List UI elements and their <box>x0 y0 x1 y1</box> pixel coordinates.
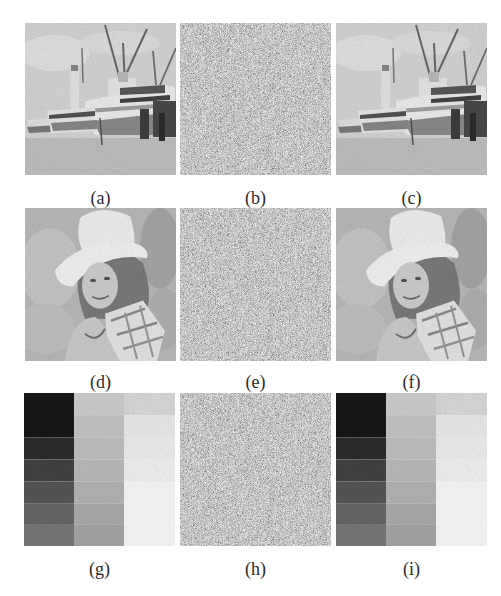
noise-image <box>180 208 331 361</box>
panel-b-encrypted-boat <box>180 23 331 175</box>
panel-c-decrypted-boat <box>336 23 487 175</box>
noise-image <box>180 393 331 546</box>
boat-image <box>336 23 487 175</box>
caption-h: (h) <box>180 559 331 579</box>
panel-d-original-woman <box>25 208 176 361</box>
caption-b: (b) <box>180 188 331 208</box>
woman-image <box>336 208 487 361</box>
panel-i-decrypted-blocks <box>336 393 487 546</box>
panel-h-encrypted-blocks <box>180 393 331 546</box>
caption-g: (g) <box>24 559 175 579</box>
caption-f: (f) <box>336 372 487 392</box>
panel-e-encrypted-woman <box>180 208 331 361</box>
caption-i: (i) <box>336 559 487 579</box>
gray-blocks-image <box>336 393 487 546</box>
panel-g-original-blocks <box>24 393 175 546</box>
caption-d: (d) <box>25 372 176 392</box>
boat-image <box>25 23 176 175</box>
woman-image <box>25 208 176 361</box>
caption-e: (e) <box>180 372 331 392</box>
gray-blocks-image <box>24 393 175 546</box>
panel-a-original-boat <box>25 23 176 175</box>
caption-c: (c) <box>336 188 487 208</box>
panel-f-decrypted-woman <box>336 208 487 361</box>
caption-a: (a) <box>25 188 176 208</box>
noise-image <box>180 23 331 175</box>
